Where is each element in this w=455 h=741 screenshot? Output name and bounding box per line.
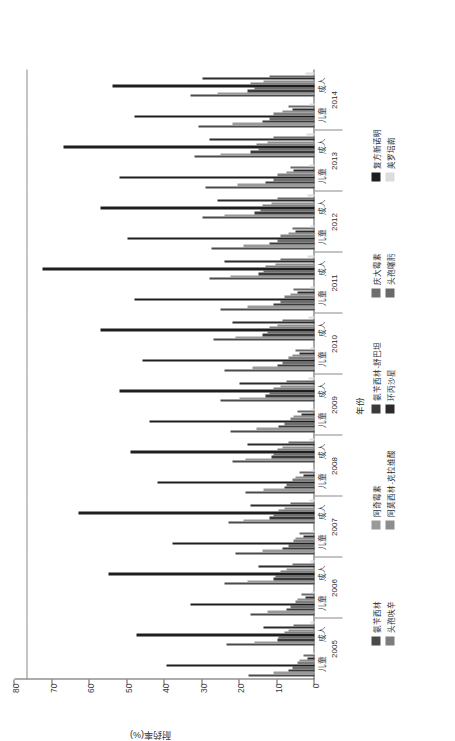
legend-item[interactable]: 复方新诺明: [370, 65, 381, 181]
y-axis-tick-label: 60: [85, 683, 95, 697]
legend-swatch-icon: [371, 172, 380, 181]
bar: [119, 389, 314, 391]
x-axis-year-underline: [26, 130, 27, 191]
y-axis-tick-label: 80: [10, 683, 20, 697]
bar: [311, 591, 314, 593]
bar: [311, 469, 314, 471]
legend-swatch-icon: [371, 520, 380, 529]
bar: [310, 225, 315, 227]
x-axis-subgroup-label: 成人: [315, 320, 326, 336]
legend-item[interactable]: 头孢噻肟: [384, 181, 395, 297]
x-axis-year-label: 2008: [329, 457, 338, 475]
bar: [78, 511, 314, 513]
x-axis-year-label: 2005: [329, 640, 338, 658]
y-axis-tick-label: 0: [310, 683, 320, 697]
x-axis-group-separator: [314, 312, 342, 313]
bar: [172, 542, 315, 544]
x-axis-year-label: 2007: [329, 518, 338, 536]
legend-item[interactable]: 头孢呋辛: [384, 529, 395, 645]
bar: [119, 176, 314, 178]
x-axis-year-label: 2014: [329, 91, 338, 109]
bar: [307, 194, 315, 196]
x-axis-subgroup-label: 儿童: [315, 595, 326, 611]
bar: [149, 420, 314, 422]
y-axis-tick-label: 70: [48, 683, 58, 697]
x-axis-subgroup-label: 儿童: [315, 290, 326, 306]
chart-canvas: 01020304050607080 儿童成人儿童成人儿童成人儿童成人儿童成人儿童…: [0, 0, 455, 741]
legend-label: 阿奇霉素: [370, 484, 381, 516]
x-axis-group-separator: [314, 251, 342, 252]
bar: [130, 450, 314, 452]
bar: [310, 286, 314, 288]
x-axis-group-separator: [314, 190, 342, 191]
bar: [308, 377, 314, 379]
y-axis-tick-label: 10: [273, 683, 283, 697]
x-axis-subgroup-label: 儿童: [315, 229, 326, 245]
bar: [306, 133, 314, 135]
bar: [63, 145, 314, 147]
plot-area: 01020304050607080 儿童成人儿童成人儿童成人儿童成人儿童成人儿童…: [14, 69, 314, 679]
bar: [312, 652, 314, 654]
x-axis-year-label: 2009: [329, 396, 338, 414]
x-axis-title: 年份: [352, 396, 364, 414]
legend-item[interactable]: 氨苄西林-舒巴坦: [370, 297, 381, 413]
bar: [136, 633, 314, 635]
x-axis-subgroup-label: 儿童: [315, 412, 326, 428]
x-axis-subgroup-label: 成人: [315, 259, 326, 275]
bar: [308, 316, 314, 318]
x-axis-year-underline: [26, 435, 27, 496]
legend-row: 氨苄西林阿奇霉素氨苄西林-舒巴坦庆大霉素复方新诺明: [370, 65, 381, 645]
bar: [305, 72, 314, 74]
x-axis-year-label: 2012: [329, 213, 338, 231]
legend-swatch-icon: [371, 404, 380, 413]
legend-swatch-icon: [385, 404, 394, 413]
legend-item[interactable]: 阿莫西林-克拉维酸: [384, 413, 395, 529]
legend-swatch-icon: [385, 636, 394, 645]
bar: [311, 530, 314, 532]
x-axis-year-underline: [26, 191, 27, 252]
bar: [309, 499, 314, 501]
x-axis-group-separator: [314, 556, 342, 557]
x-axis-subgroup-label: 儿童: [315, 534, 326, 550]
bar: [311, 408, 314, 410]
legend-label: 氨苄西林: [370, 600, 381, 632]
x-axis-year-label: 2011: [329, 274, 338, 291]
x-axis-year-underline: [26, 313, 27, 374]
bar: [100, 328, 314, 330]
bar: [157, 481, 315, 483]
legend-item[interactable]: 阿奇霉素: [370, 413, 381, 529]
x-axis-subgroup-label: 成人: [315, 503, 326, 519]
x-axis-subgroup-label: 成人: [315, 564, 326, 580]
legend-item[interactable]: 环丙沙星: [384, 297, 395, 413]
bar: [134, 298, 314, 300]
x-axis-subgroup-label: 成人: [315, 76, 326, 92]
x-axis-subgroup-label: 成人: [315, 137, 326, 153]
x-axis-subgroup-label: 儿童: [315, 107, 326, 123]
legend-label: 头孢噻肟: [384, 252, 395, 284]
y-axis-title: 耐药率(%): [130, 729, 171, 741]
x-axis-subgroup-label: 成人: [315, 625, 326, 641]
legend-swatch-icon: [385, 172, 394, 181]
bar: [309, 103, 314, 105]
legend-swatch-icon: [385, 520, 394, 529]
y-axis-tick-label: 20: [235, 683, 245, 697]
x-axis-subgroup-label: 成人: [315, 381, 326, 397]
x-axis-subgroup-label: 儿童: [315, 351, 326, 367]
x-axis-group-separator: [314, 373, 342, 374]
legend-item[interactable]: 氨苄西林: [370, 529, 381, 645]
legend-swatch-icon: [385, 288, 394, 297]
bar: [190, 603, 314, 605]
x-axis-year-underline: [26, 496, 27, 557]
legend-label: 复方新诺明: [370, 128, 381, 168]
x-axis-year-underline: [26, 557, 27, 618]
legend-item[interactable]: 美罗培南: [384, 65, 395, 181]
x-axis-subgroup-label: 成人: [315, 198, 326, 214]
x-axis-group-separator: [314, 129, 342, 130]
y-axis-tick-label: 50: [123, 683, 133, 697]
x-axis-subgroup-label: 成人: [315, 442, 326, 458]
legend-label: 阿莫西林-克拉维酸: [384, 449, 395, 516]
legend-item[interactable]: 庆大霉素: [370, 181, 381, 297]
bar: [112, 84, 315, 86]
x-axis-year-label: 2006: [329, 579, 338, 597]
legend-label: 环丙沙星: [384, 368, 395, 400]
